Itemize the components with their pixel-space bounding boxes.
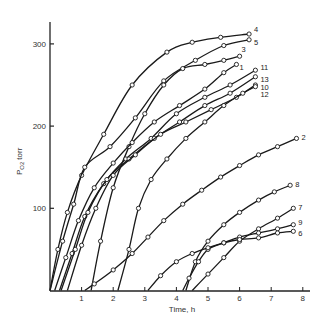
data-point-marker [253, 68, 257, 72]
y-tick-label: 300 [33, 40, 47, 49]
series-label: 11 [260, 63, 268, 72]
data-point-marker [181, 66, 185, 70]
series-label: 3 [242, 45, 246, 54]
series-label: 5 [254, 38, 258, 47]
data-point-marker [288, 183, 292, 187]
data-point-marker [253, 85, 257, 89]
series-5: 5 [50, 38, 258, 291]
axes [50, 22, 310, 291]
data-point-marker [206, 239, 210, 243]
data-point-marker [162, 83, 166, 87]
series-3: 3 [91, 45, 246, 290]
x-tick-label: 1 [79, 294, 84, 303]
data-point-marker [181, 202, 185, 206]
data-point-marker [222, 223, 226, 227]
data-point-marker [159, 274, 163, 278]
data-point-marker [143, 112, 147, 116]
data-point-marker [92, 282, 96, 286]
data-point-marker [92, 186, 96, 190]
data-point-marker [209, 108, 213, 112]
data-point-marker [56, 247, 60, 251]
data-point-marker [275, 216, 279, 220]
series-label: 9 [298, 218, 302, 227]
data-point-marker [238, 210, 242, 214]
data-point-marker [184, 120, 188, 124]
data-point-marker [256, 153, 260, 157]
data-point-marker [174, 260, 178, 264]
data-point-marker [275, 227, 279, 231]
series-6: 6 [148, 229, 302, 290]
data-point-marker [256, 227, 260, 231]
data-point-marker [222, 241, 226, 245]
x-tick-label: 5 [206, 294, 211, 303]
data-point-marker [111, 268, 115, 272]
data-point-marker [111, 161, 115, 165]
data-point-marker [133, 153, 137, 157]
series-label: 1 [239, 63, 243, 72]
data-point-marker [177, 120, 181, 124]
series-label: 6 [298, 229, 302, 238]
data-point-marker [256, 236, 260, 240]
data-point-marker [222, 256, 226, 260]
data-point-marker [238, 237, 242, 241]
data-point-marker [61, 239, 65, 243]
series-9: 9 [183, 218, 303, 291]
series-label: 12 [260, 90, 268, 99]
data-point-marker [152, 120, 156, 124]
data-point-marker [238, 163, 242, 167]
data-point-marker [162, 219, 166, 223]
data-point-marker [222, 103, 226, 107]
series-label: 8 [295, 180, 299, 189]
series-label: 2 [301, 133, 305, 142]
data-point-marker [256, 231, 260, 235]
data-point-marker [105, 177, 109, 181]
data-point-marker [159, 132, 163, 136]
x-tick-label: 3 [143, 294, 148, 303]
data-point-marker [165, 157, 169, 161]
x-tick-label: 6 [237, 294, 242, 303]
series-8: 8 [186, 180, 299, 290]
data-point-marker [193, 58, 197, 62]
data-point-marker [222, 58, 226, 62]
data-point-marker [238, 54, 242, 58]
data-point-marker [275, 231, 279, 235]
y-axis-title-unit: torr [15, 147, 24, 159]
data-point-marker [200, 188, 204, 192]
data-point-marker [130, 140, 134, 144]
data-point-marker [133, 116, 137, 120]
data-point-marker [203, 120, 207, 124]
data-point-marker [196, 260, 200, 264]
data-point-marker [203, 95, 207, 99]
data-point-marker [294, 136, 298, 140]
data-point-marker [184, 136, 188, 140]
series-12: 12 [118, 85, 269, 291]
data-point-marker [108, 145, 112, 149]
data-point-marker [127, 247, 131, 251]
data-point-marker [275, 145, 279, 149]
x-tick-label: 2 [111, 294, 116, 303]
data-point-marker [190, 40, 194, 44]
data-point-marker [73, 247, 77, 251]
y-axis-title-sub: O2 [19, 161, 25, 170]
x-tick-label: 4 [174, 294, 179, 303]
data-point-marker [83, 165, 87, 169]
plot-series: 45311113101228796 [50, 25, 306, 290]
y-axis-title: PO2torr [15, 147, 25, 175]
data-point-marker [203, 87, 207, 91]
data-point-marker [234, 62, 238, 66]
data-point-marker [136, 206, 140, 210]
data-point-marker [80, 243, 84, 247]
data-point-marker [72, 202, 76, 206]
data-point-marker [203, 62, 207, 66]
data-point-marker [165, 50, 169, 54]
data-point-marker [222, 71, 226, 75]
data-point-marker [228, 83, 232, 87]
data-point-marker [94, 206, 98, 210]
data-point-marker [203, 103, 207, 107]
data-point-marker [206, 272, 210, 276]
series-line [85, 138, 297, 290]
data-point-marker [219, 175, 223, 179]
data-point-marker [219, 35, 223, 39]
series-label: 4 [254, 25, 258, 34]
data-point-marker [291, 206, 295, 210]
